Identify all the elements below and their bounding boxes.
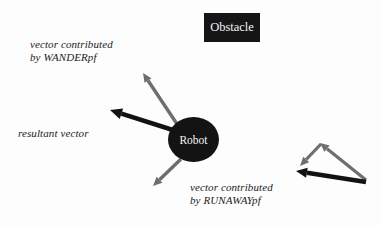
- runaway-contribution: [153, 159, 181, 186]
- wander-vector-label-line2: by WANDERpf: [30, 51, 113, 64]
- diagram-canvas: Obstacle Robot vector contributed by WAN…: [0, 0, 381, 226]
- obstacle-repulsion-vector: [300, 144, 321, 166]
- resultant-vector: [110, 108, 176, 131]
- obstacle-label: Obstacle: [204, 13, 260, 42]
- obstacle-rectangle: Obstacle: [204, 13, 260, 42]
- obstacle-repulsion-vector-shaft: [306, 144, 321, 159]
- runaway-vector-label-line2: by RUNAWAYpf: [190, 194, 273, 207]
- runaway-resultant-vector-arrowhead: [296, 168, 308, 178]
- resultant-vector-label-line1: resultant vector: [18, 127, 89, 140]
- runaway-contribution-shaft: [159, 159, 181, 180]
- runaway-vector-label: vector contributed by RUNAWAYpf: [190, 181, 273, 207]
- robot-node: Robot: [168, 117, 219, 162]
- wander-vector-label: vector contributed by WANDERpf: [30, 38, 113, 64]
- resultant-vector-arrowhead: [110, 108, 123, 119]
- resultant-vector-label: resultant vector: [18, 127, 89, 140]
- wander-vector-label-line1: vector contributed: [30, 38, 113, 51]
- runaway-vector-label-line1: vector contributed: [190, 181, 273, 194]
- robot-label: Robot: [168, 117, 219, 162]
